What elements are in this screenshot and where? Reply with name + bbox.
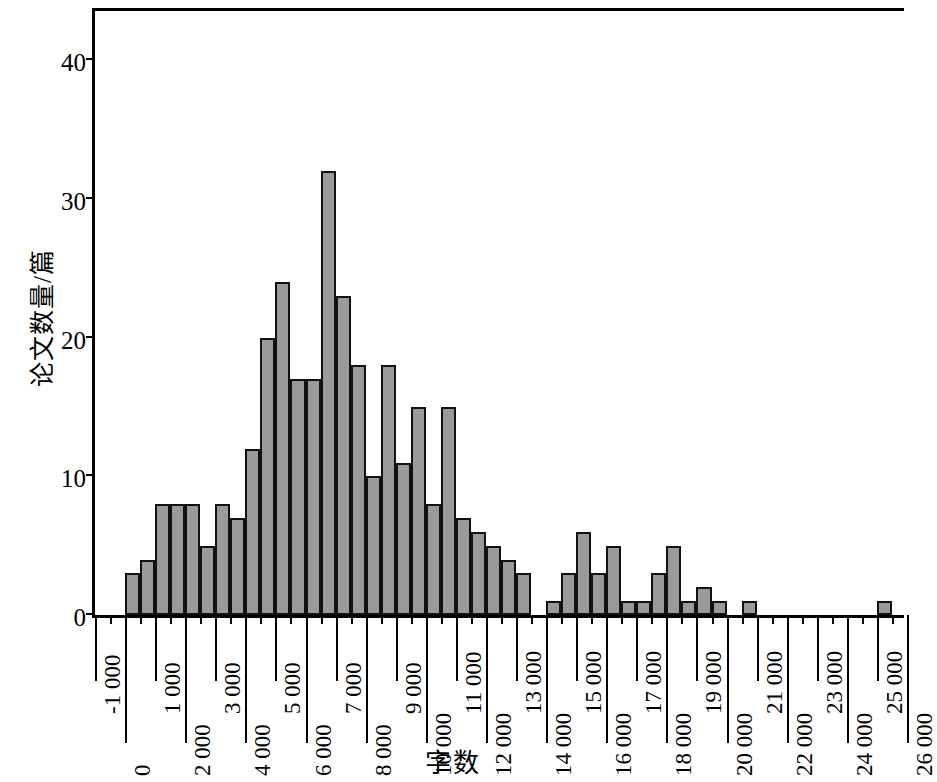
histogram-bar xyxy=(591,573,606,615)
x-axis-tick xyxy=(396,615,398,681)
y-axis-tick-label: 30 xyxy=(40,189,86,214)
plot-area xyxy=(92,8,904,618)
histogram-bar xyxy=(606,546,621,615)
y-axis-tick-label: 10 xyxy=(40,466,86,491)
x-axis-tick xyxy=(471,615,473,624)
y-axis-tick xyxy=(86,336,95,338)
x-axis-tick xyxy=(140,615,142,624)
x-axis-tick xyxy=(651,615,653,624)
x-axis-tick xyxy=(787,615,789,743)
histogram-bar xyxy=(140,560,155,615)
x-axis-tick-label-upper: 7 000 xyxy=(342,662,365,714)
x-axis-tick xyxy=(546,615,548,743)
x-axis-tick xyxy=(155,615,157,681)
x-axis-tick xyxy=(336,615,338,681)
x-axis-tick xyxy=(561,615,563,624)
x-axis-tick xyxy=(621,615,623,624)
x-axis-tick-label-lower: 24 000 xyxy=(853,713,876,776)
histogram-bar xyxy=(230,518,245,615)
histogram-bar xyxy=(321,171,336,615)
histogram-bar xyxy=(666,546,681,615)
x-axis-tick xyxy=(200,615,202,624)
histogram-bar xyxy=(381,365,396,615)
y-axis-tick-label: 0 xyxy=(40,605,86,630)
x-axis-tick xyxy=(290,615,292,624)
x-axis-tick xyxy=(847,615,849,743)
histogram-bar xyxy=(275,282,290,615)
x-axis-tick-label-lower: 12 000 xyxy=(492,713,515,776)
x-axis-tick-label-lower: 2 000 xyxy=(191,724,214,776)
x-axis-tick-label-lower: 14 000 xyxy=(552,713,575,776)
x-axis-tick-label-lower: 16 000 xyxy=(612,713,635,776)
x-axis-tick xyxy=(381,615,383,624)
x-axis-tick xyxy=(411,615,413,624)
x-axis-tick xyxy=(606,615,608,743)
x-axis-tick xyxy=(666,615,668,743)
x-axis-tick xyxy=(832,615,834,624)
histogram-bar xyxy=(712,601,727,615)
x-axis-tick xyxy=(712,615,714,624)
x-axis-tick-label-upper: 25 000 xyxy=(883,651,906,714)
histogram-bar xyxy=(200,546,215,615)
histogram-bar xyxy=(636,601,651,615)
x-axis-tick xyxy=(696,615,698,681)
histogram-bar xyxy=(681,601,696,615)
x-axis-tick xyxy=(275,615,277,681)
x-axis-tick-label-lower: 4 000 xyxy=(251,724,274,776)
x-axis-tick-label-upper: 3 000 xyxy=(221,662,244,714)
x-axis-tick xyxy=(230,615,232,624)
x-axis-tick-label-upper: -1 000 xyxy=(101,655,124,714)
x-axis-tick-label-lower: 20 000 xyxy=(733,713,756,776)
histogram-bar xyxy=(742,601,757,615)
x-axis-tick xyxy=(907,615,909,743)
y-axis-tick xyxy=(86,58,95,60)
histogram-bar xyxy=(396,463,411,616)
histogram-bar xyxy=(125,573,140,615)
x-axis-tick-label-upper: 21 000 xyxy=(763,651,786,714)
histogram-bar xyxy=(576,532,591,615)
x-axis-tick xyxy=(877,615,879,681)
histogram-bar xyxy=(501,560,516,615)
histogram-bar xyxy=(546,601,561,615)
x-axis-tick xyxy=(456,615,458,681)
x-axis-tick xyxy=(681,615,683,624)
x-axis-tick xyxy=(95,615,97,681)
x-axis-tick xyxy=(727,615,729,743)
x-axis-tick-label-lower: 10 000 xyxy=(432,713,455,776)
histogram-bar xyxy=(486,546,501,615)
x-axis-tick-label-lower: 22 000 xyxy=(793,713,816,776)
histogram-bar xyxy=(155,504,170,615)
x-axis-tick xyxy=(185,615,187,743)
histogram-bar xyxy=(516,573,531,615)
x-axis-tick xyxy=(170,615,172,624)
x-axis-tick-label-lower: 6 000 xyxy=(312,724,335,776)
histogram-bar xyxy=(260,338,275,615)
x-axis-tick xyxy=(486,615,488,743)
histogram-bar xyxy=(185,504,200,615)
x-axis-tick xyxy=(501,615,503,624)
x-axis-tick xyxy=(215,615,217,681)
x-axis-tick xyxy=(306,615,308,743)
x-axis-tick-label-lower: 0 xyxy=(131,765,154,777)
x-axis-tick xyxy=(110,615,112,624)
x-axis-tick xyxy=(441,615,443,624)
x-axis-tick xyxy=(260,615,262,624)
histogram-bar xyxy=(471,532,486,615)
x-axis-tick xyxy=(426,615,428,743)
x-axis-tick xyxy=(516,615,518,681)
y-axis-tick-label: 40 xyxy=(40,50,86,75)
y-axis-tick-labels: 010203040 xyxy=(8,0,86,782)
x-axis-tick xyxy=(742,615,744,624)
x-axis-tick xyxy=(351,615,353,624)
histogram-bar xyxy=(651,573,666,615)
y-axis-tick xyxy=(86,474,95,476)
histogram-bar xyxy=(877,601,892,615)
x-axis-tick-label-upper: 23 000 xyxy=(823,651,846,714)
histogram-bar xyxy=(306,379,321,615)
y-axis-tick xyxy=(86,613,95,615)
y-axis-tick xyxy=(86,197,95,199)
x-axis-tick-label-upper: 5 000 xyxy=(281,662,304,714)
histogram-bar xyxy=(456,518,471,615)
x-axis-tick xyxy=(245,615,247,743)
